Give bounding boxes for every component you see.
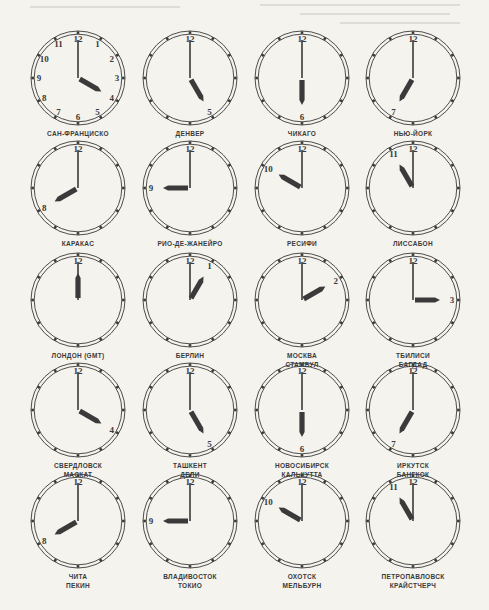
city-name: ЛИССАБОН <box>343 239 483 248</box>
clock-city-label: ЛИССАБОН <box>343 239 483 248</box>
clock-face: 1211 <box>363 138 463 238</box>
svg-text:7: 7 <box>56 107 61 117</box>
svg-text:8: 8 <box>42 203 47 213</box>
svg-text:5: 5 <box>207 439 212 449</box>
svg-text:1: 1 <box>95 39 100 49</box>
clock-face: 126 <box>252 360 352 460</box>
clock-city-label: НЬЮ-ЙОРК <box>343 129 483 138</box>
clock-face: 126 <box>252 28 352 128</box>
svg-text:9: 9 <box>149 183 154 193</box>
svg-text:7: 7 <box>391 107 396 117</box>
svg-text:7: 7 <box>391 439 396 449</box>
clock-face: 128 <box>28 471 128 571</box>
svg-text:11: 11 <box>389 482 398 492</box>
clock-face: 125 <box>140 360 240 460</box>
svg-text:10: 10 <box>264 164 274 174</box>
svg-text:6: 6 <box>300 112 305 122</box>
clock-city-label: ПЕТРОПАВЛОВСККРАЙСТЧЕРЧ <box>343 572 483 590</box>
svg-text:8: 8 <box>42 93 47 103</box>
clock-face: 123 <box>363 250 463 350</box>
svg-text:9: 9 <box>149 516 154 526</box>
clock-face: 129 <box>140 138 240 238</box>
city-name: ТБИЛИСИ <box>343 351 483 360</box>
clock-face: 127 <box>363 360 463 460</box>
svg-text:3: 3 <box>450 295 455 305</box>
svg-text:8: 8 <box>42 536 47 546</box>
svg-text:11: 11 <box>389 149 398 159</box>
svg-text:2: 2 <box>110 54 115 64</box>
bleed-through-text <box>0 0 489 30</box>
clock-face: 125 <box>140 28 240 128</box>
svg-text:11: 11 <box>54 39 63 49</box>
clock-face: 12 <box>28 250 128 350</box>
clock-face: 121 <box>140 250 240 350</box>
clock-face: 128 <box>28 138 128 238</box>
svg-text:5: 5 <box>95 107 100 117</box>
clock-face: 124 <box>28 360 128 460</box>
city-name: ПЕТРОПАВЛОВСК <box>343 572 483 581</box>
svg-text:6: 6 <box>76 112 81 122</box>
svg-text:4: 4 <box>110 425 115 435</box>
svg-text:3: 3 <box>115 73 120 83</box>
clock-face: 1211 <box>363 471 463 571</box>
city-name: КРАЙСТЧЕРЧ <box>343 581 483 590</box>
svg-text:1: 1 <box>207 261 212 271</box>
svg-text:5: 5 <box>207 107 212 117</box>
city-name: НЬЮ-ЙОРК <box>343 129 483 138</box>
svg-text:6: 6 <box>300 444 305 454</box>
clock-face: 1210 <box>252 471 352 571</box>
clock-face: 1210 <box>252 138 352 238</box>
clock-face: 129 <box>140 471 240 571</box>
svg-text:4: 4 <box>110 93 115 103</box>
svg-text:2: 2 <box>334 276 339 286</box>
city-name: ИРКУТСК <box>343 461 483 470</box>
svg-text:9: 9 <box>37 73 42 83</box>
clock-face: 127 <box>363 28 463 128</box>
world-clocks-page: 123456789101112САН-ФРАНЦИСКО125ДЕНВЕР126… <box>0 0 489 610</box>
svg-text:10: 10 <box>40 54 50 64</box>
svg-text:10: 10 <box>264 497 274 507</box>
clock-face: 123456789101112 <box>28 28 128 128</box>
clock-face: 122 <box>252 250 352 350</box>
